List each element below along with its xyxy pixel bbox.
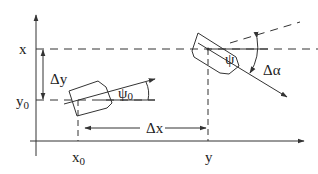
label-y: y <box>205 149 213 165</box>
label-psi: ψ <box>225 51 235 67</box>
label-delta-x: Δx <box>146 120 164 136</box>
label-psi0: ψ0 <box>118 85 133 102</box>
initial-vehicle-body <box>69 81 112 116</box>
label-y0: y0 <box>16 93 30 111</box>
intermediate-dashed-line <box>230 22 300 43</box>
vehicle-kinematics-diagram: x y0 Δy ψ0 Δx ψ Δα x0 y <box>0 0 318 174</box>
label-delta-alpha: Δα <box>263 62 281 78</box>
final-position-point <box>207 48 210 51</box>
diagram-canvas: x y0 Δy ψ0 Δx ψ Δα x0 y <box>0 0 318 174</box>
psi0-angle-arc <box>146 82 149 100</box>
label-x: x <box>19 41 27 57</box>
label-delta-y: Δy <box>50 71 68 87</box>
delta-alpha-angle-arc <box>250 38 258 73</box>
label-x0: x0 <box>72 149 86 167</box>
